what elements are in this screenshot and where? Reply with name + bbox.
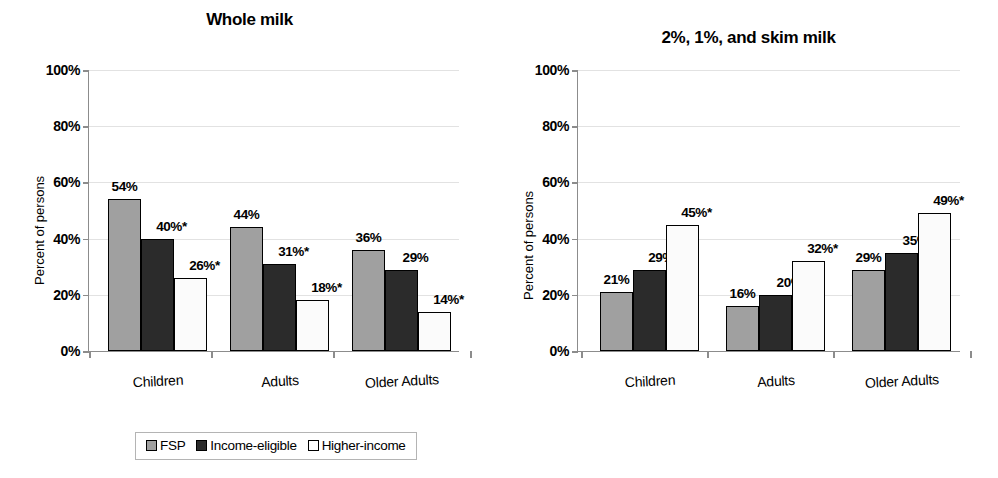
bar-fsp-adults bbox=[230, 227, 263, 351]
y-axis-tick-label: 20% bbox=[542, 287, 569, 303]
x-axis-category-label: Children bbox=[624, 372, 675, 391]
x-axis-tick-mark bbox=[470, 351, 472, 358]
gridline bbox=[578, 70, 960, 71]
bar-higher-income-children bbox=[174, 278, 207, 351]
x-axis-category-label: Older Adults bbox=[364, 371, 439, 391]
y-axis-tick-label: 100% bbox=[535, 62, 569, 78]
bar-value-label: 29% bbox=[856, 250, 882, 265]
legend-entry-eligible[interactable]: Income-eligible bbox=[196, 438, 296, 453]
bar-value-label: 40%* bbox=[156, 219, 187, 234]
y-axis-tick-label: 40% bbox=[53, 231, 80, 247]
y-axis-tick-mark bbox=[83, 239, 89, 241]
x-axis-tick-mark bbox=[333, 351, 335, 358]
y-axis-tick-mark bbox=[83, 295, 89, 297]
bar-value-label: 54% bbox=[112, 179, 138, 194]
gridline bbox=[89, 126, 459, 127]
y-axis-tick-label: 60% bbox=[542, 174, 569, 190]
gridline bbox=[89, 70, 459, 71]
bar-fsp-adults bbox=[726, 306, 759, 351]
y-axis-tick-label: 20% bbox=[53, 287, 80, 303]
legend-swatch-icon bbox=[196, 440, 207, 451]
bar-income-eligible-children bbox=[141, 239, 174, 351]
legend-entry-fsp[interactable]: FSP bbox=[146, 438, 185, 453]
gridline bbox=[89, 182, 459, 183]
y-axis-tick-mark bbox=[572, 351, 578, 353]
bar-value-label: 36% bbox=[356, 230, 382, 245]
x-axis-category-label: Adults bbox=[260, 372, 299, 390]
legend: FSPIncome-eligibleHigher-income bbox=[135, 432, 417, 460]
bar-income-eligible-children bbox=[633, 270, 666, 351]
legend-swatch-icon bbox=[308, 440, 319, 451]
x-axis-tick-mark bbox=[89, 351, 91, 358]
x-axis-tick-mark bbox=[581, 351, 583, 358]
bar-value-label: 44% bbox=[234, 207, 260, 222]
bar-fsp-children bbox=[108, 199, 141, 351]
y-axis-tick-label: 80% bbox=[542, 118, 569, 134]
legend-entry-label: Higher-income bbox=[322, 438, 406, 453]
legend-swatch-icon bbox=[146, 440, 157, 451]
legend-entry-label: FSP bbox=[160, 438, 185, 453]
bar-higher-income-older-adults bbox=[418, 312, 451, 351]
y-axis-tick-mark bbox=[83, 126, 89, 128]
bar-income-eligible-older-adults bbox=[385, 270, 418, 351]
y-axis-tick-label: 0% bbox=[61, 343, 80, 359]
y-axis-tick-mark bbox=[83, 70, 89, 72]
page-title: 2%, 1%, and skim milk bbox=[499, 28, 998, 48]
y-axis-tick-mark bbox=[572, 126, 578, 128]
plot-area: 0%20%40%60%80%100%54%40%*26%*Children44%… bbox=[88, 70, 459, 351]
gridline bbox=[578, 126, 960, 127]
x-axis-tick-mark bbox=[833, 351, 835, 358]
gridline bbox=[578, 182, 960, 183]
y-axis-tick-label: 60% bbox=[53, 174, 80, 190]
y-axis-tick-mark bbox=[572, 182, 578, 184]
bar-higher-income-adults bbox=[792, 261, 825, 351]
bar-value-label: 26%* bbox=[189, 258, 220, 273]
y-axis-tick-label: 0% bbox=[550, 343, 569, 359]
bar-higher-income-children bbox=[666, 225, 699, 351]
bar-value-label: 16% bbox=[730, 286, 756, 301]
bar-income-eligible-older-adults bbox=[885, 253, 918, 351]
x-axis-tick-mark bbox=[707, 351, 709, 358]
y-axis-title: Percent of persons bbox=[521, 191, 536, 300]
x-axis-tick-mark bbox=[970, 351, 972, 358]
bar-fsp-older-adults bbox=[352, 250, 385, 351]
legend-entry-label: Income-eligible bbox=[210, 438, 296, 453]
bar-value-label: 18%* bbox=[311, 280, 342, 295]
bar-value-label: 32%* bbox=[807, 241, 838, 256]
y-axis-tick-mark bbox=[572, 239, 578, 241]
legend-entry-higher[interactable]: Higher-income bbox=[308, 438, 406, 453]
bar-income-eligible-adults bbox=[759, 295, 792, 351]
bar-value-label: 45%* bbox=[681, 205, 712, 220]
y-axis-tick-mark bbox=[572, 295, 578, 297]
y-axis-tick-label: 40% bbox=[542, 231, 569, 247]
bar-value-label: 21% bbox=[604, 272, 630, 287]
x-axis-category-label: Older Adults bbox=[864, 371, 939, 391]
chart-panel-whole-milk: Whole milk Percent of persons 0%20%40%60… bbox=[0, 0, 499, 478]
chart-panel-lowfat-milk: 2%, 1%, and skim milk Percent of persons… bbox=[499, 0, 998, 478]
bar-fsp-children bbox=[600, 292, 633, 351]
bar-value-label: 49%* bbox=[933, 193, 964, 208]
bar-value-label: 31%* bbox=[278, 244, 309, 259]
bar-fsp-older-adults bbox=[852, 270, 885, 351]
x-axis-category-label: Children bbox=[132, 372, 183, 391]
bar-value-label: 29% bbox=[403, 250, 429, 265]
x-axis-category-label: Adults bbox=[756, 372, 795, 390]
bar-higher-income-adults bbox=[296, 300, 329, 351]
y-axis-tick-label: 80% bbox=[53, 118, 80, 134]
bar-higher-income-older-adults bbox=[918, 213, 951, 351]
y-axis-tick-mark bbox=[572, 70, 578, 72]
y-axis-title: Percent of persons bbox=[32, 176, 47, 285]
y-axis-tick-label: 100% bbox=[46, 62, 80, 78]
y-axis-tick-mark bbox=[83, 182, 89, 184]
bar-income-eligible-adults bbox=[263, 264, 296, 351]
bar-value-label: 14%* bbox=[433, 292, 464, 307]
x-axis-tick-mark bbox=[211, 351, 213, 358]
plot-area: 0%20%40%60%80%100%21%29%*45%*Children16%… bbox=[577, 70, 960, 351]
page-title: Whole milk bbox=[0, 10, 499, 30]
